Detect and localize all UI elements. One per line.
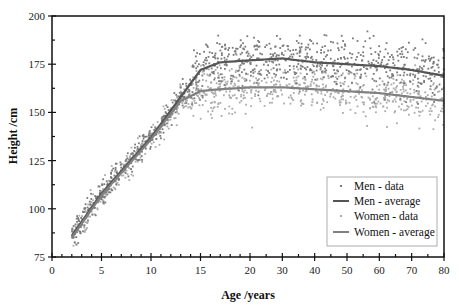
y-tick-label: 125 xyxy=(29,155,46,167)
x-tick-label: 80 xyxy=(439,264,451,276)
x-tick-label: 50 xyxy=(342,264,354,276)
svg-text:Women - data: Women - data xyxy=(354,210,418,222)
x-tick-label: 60 xyxy=(374,264,386,276)
legend: Men - data Men - average Women - data Wo… xyxy=(327,177,437,246)
dot-marker-icon xyxy=(340,185,342,187)
x-tick-label: 30 xyxy=(277,264,289,276)
y-axis-title: Height /cm xyxy=(6,108,20,164)
x-tick-label: 15 xyxy=(195,264,207,276)
x-tick-label: 5 xyxy=(99,264,105,276)
height-vs-age-chart: 75100125150175200 05101520304050607080 A… xyxy=(0,0,459,307)
x-tick-label: 40 xyxy=(309,264,321,276)
svg-text:Women - average: Women - average xyxy=(354,226,435,239)
x-tick-label: 10 xyxy=(146,264,158,276)
svg-text:Men - average: Men - average xyxy=(354,195,420,208)
x-tick-label: 0 xyxy=(49,264,55,276)
dot-marker-icon xyxy=(340,215,342,217)
y-tick-label: 100 xyxy=(29,203,46,215)
x-tick-label: 20 xyxy=(245,264,257,276)
x-axis-title: Age /years xyxy=(221,288,275,302)
y-tick-label: 200 xyxy=(29,10,46,22)
y-tick-label: 150 xyxy=(29,106,46,118)
y-tick-label: 75 xyxy=(34,251,46,263)
y-tick-label: 175 xyxy=(29,58,46,70)
svg-text:Men - data: Men - data xyxy=(354,180,404,192)
x-tick-label: 70 xyxy=(406,264,418,276)
